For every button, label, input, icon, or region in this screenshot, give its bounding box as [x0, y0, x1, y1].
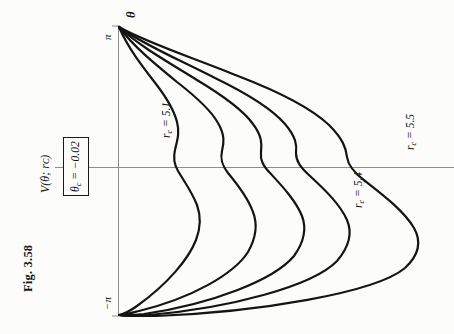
curve-label-rc-5-5: rc = 5.5	[404, 114, 418, 150]
curve-label-symbol: r	[352, 204, 364, 208]
curve-label-symbol: r	[404, 146, 416, 150]
param-symbol: θ	[69, 186, 81, 192]
curve-label-equals: =	[160, 116, 172, 130]
parameter-annotation-box: θc = −0.02	[63, 137, 89, 196]
curve-group	[119, 27, 418, 316]
tick-label-pi-positive: π	[101, 34, 113, 40]
curve-label-subscript: c	[409, 142, 418, 146]
curve-label-equals: =	[404, 128, 416, 142]
x-axis-label-theta: θ	[124, 12, 139, 19]
param-equals: =	[69, 169, 81, 183]
param-subscript: c	[74, 183, 83, 187]
curve-rc-5-1	[119, 27, 200, 315]
curve-label-value: 5.1	[160, 102, 172, 116]
param-value: −0.02	[69, 141, 81, 169]
curve-label-value: 5.5	[404, 114, 416, 128]
figure-panel: Fig. 3.58 V(θ; rᴄ) θ π −π θc = −0.02 rc …	[0, 0, 454, 334]
curve-label-value: 5.4	[352, 172, 364, 186]
curve-rc-5-4	[119, 27, 350, 316]
curve-rc-5-2	[119, 27, 256, 315]
curve-label-rc-5-1: rc = 5.1	[160, 102, 174, 138]
y-axis-label: V(θ; rᴄ)	[38, 155, 53, 193]
curve-label-rc-5-4: rc = 5.4	[352, 172, 366, 208]
curve-label-symbol: r	[160, 134, 172, 138]
curve-label-subscript: c	[165, 130, 174, 134]
figure-caption: Fig. 3.58	[21, 245, 36, 292]
curve-label-subscript: c	[357, 200, 366, 204]
curve-label-equals: =	[352, 186, 364, 200]
tick-label-pi-negative: −π	[101, 297, 113, 310]
